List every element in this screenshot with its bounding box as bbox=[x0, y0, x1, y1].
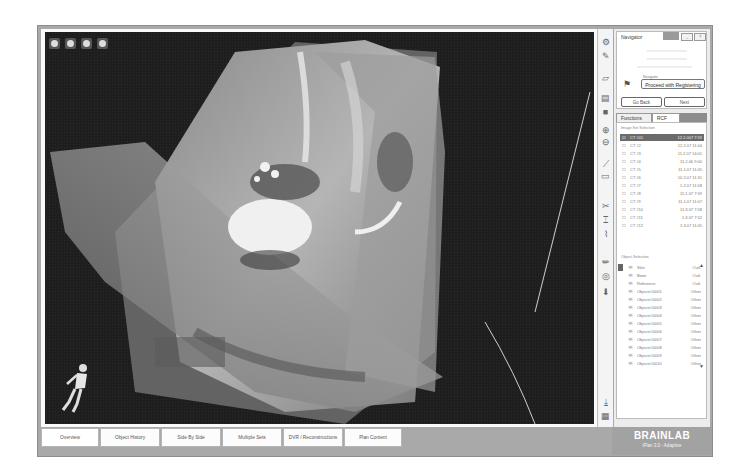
object-visibility-icon[interactable]: 👁 bbox=[625, 328, 635, 335]
tab-overview[interactable]: Overview bbox=[41, 428, 99, 447]
logo-text: BRAINLAB bbox=[612, 430, 712, 441]
tab-object-history[interactable]: Object History bbox=[100, 428, 160, 447]
zoom-out-icon[interactable]: ⊖ bbox=[600, 137, 611, 148]
object-row[interactable]: 👁Objects#0004Other bbox=[625, 312, 703, 319]
navigator-step bbox=[637, 66, 692, 68]
image-set-row[interactable]: ☐CT #511.1.07 11:05 bbox=[620, 166, 704, 173]
brush-icon[interactable]: ✎ bbox=[600, 51, 611, 62]
checkbox-icon[interactable]: ☐ bbox=[620, 190, 628, 197]
next-button[interactable]: Next bbox=[664, 97, 705, 107]
object-visibility-icon[interactable]: 👁 bbox=[625, 360, 635, 367]
checkbox-icon[interactable]: ☐ bbox=[620, 158, 628, 165]
tab-multiple-sets[interactable]: Multiple Sets bbox=[222, 428, 282, 447]
object-visibility-icon[interactable]: 👁 bbox=[625, 264, 635, 271]
image-set-row[interactable]: ☐CT #71.2.07 11:58 bbox=[620, 182, 704, 189]
selection-lists: Image Set Selection ☑CT #0112.2.007 7:59… bbox=[616, 122, 707, 419]
object-visibility-icon[interactable]: 👁 bbox=[625, 280, 635, 287]
screenshot-icon[interactable]: ▭ bbox=[600, 171, 611, 182]
checkbox-icon[interactable]: ☐ bbox=[620, 198, 628, 205]
object-visibility-icon[interactable]: 👁 bbox=[625, 296, 635, 303]
checkbox-icon[interactable]: ☐ bbox=[620, 182, 628, 189]
export-icon[interactable]: ⤓ bbox=[600, 397, 611, 408]
checkbox-icon[interactable]: ☐ bbox=[620, 142, 628, 149]
zoom-icon[interactable] bbox=[49, 38, 60, 49]
tab-plan-content[interactable]: Plan Content bbox=[344, 428, 402, 447]
multi-cut-icon[interactable]: ⌇ bbox=[600, 229, 611, 240]
display-settings-icon[interactable]: ⚙ bbox=[600, 37, 611, 48]
image-set-row[interactable]: ☐CT #212.2.07 11:04 bbox=[620, 142, 704, 149]
image-set-row[interactable]: ☐CT #811.1.07 7:59 bbox=[620, 190, 704, 197]
object-visibility-icon[interactable]: 👁 bbox=[625, 312, 635, 319]
checkbox-icon[interactable]: ☐ bbox=[620, 222, 628, 229]
minimize-button[interactable]: _ bbox=[681, 33, 693, 41]
pencil-icon[interactable]: ✏ bbox=[600, 257, 611, 268]
object-row[interactable]: 👁Objects#0006Other bbox=[625, 328, 703, 335]
navigator-panel: Navigator _ ? ⚑ Navigator Proceed with R… bbox=[616, 31, 707, 109]
object-visibility-icon[interactable]: 👁 bbox=[625, 304, 635, 311]
checkbox-icon[interactable]: ☐ bbox=[620, 214, 628, 221]
image-set-row[interactable]: ☑CT #0112.2.007 7:59 bbox=[620, 134, 704, 141]
object-row[interactable]: 👁Objects#0008Other bbox=[625, 344, 703, 351]
object-visibility-icon[interactable]: 👁 bbox=[625, 272, 635, 279]
checkbox-icon[interactable]: ☐ bbox=[620, 150, 628, 157]
image-set-row[interactable]: ☐CT #111.3.07 7:52 bbox=[620, 214, 704, 221]
object-visibility-icon[interactable]: 👁 bbox=[625, 352, 635, 359]
pan-icon[interactable] bbox=[81, 38, 92, 49]
object-visibility-icon[interactable]: 👁 bbox=[625, 344, 635, 351]
measure-icon[interactable]: ⟋ bbox=[600, 159, 611, 170]
checkbox-icon[interactable]: ☐ bbox=[620, 206, 628, 213]
color-swatch bbox=[618, 264, 623, 271]
tab-functions[interactable]: Functions bbox=[616, 113, 652, 122]
object-row[interactable]: 👁Objects#0009Other bbox=[625, 352, 703, 359]
image-set-row[interactable]: ☐CT #411.2.06 9:00 bbox=[620, 158, 704, 165]
checkbox-icon[interactable]: ☐ bbox=[620, 166, 628, 173]
image-set-section-label: Image Set Selection bbox=[621, 126, 655, 130]
navigator-header-accent bbox=[663, 32, 679, 40]
object-row[interactable]: 👁Objects#0002Other bbox=[625, 296, 703, 303]
navigator-flag-icon: ⚑ bbox=[623, 79, 635, 89]
viewer-container bbox=[41, 29, 597, 427]
tab-dvr-reconstructions[interactable]: DVR / Reconstructions bbox=[283, 428, 343, 447]
image-set-row[interactable]: ☐CT #1011.3.07 7:58 bbox=[620, 206, 704, 213]
object-row[interactable]: 👁Objects#0010Other bbox=[625, 360, 703, 367]
navigator-title: Navigator bbox=[621, 34, 642, 40]
cut-alt-icon[interactable]: ⌶ bbox=[600, 215, 611, 226]
tab-rcf[interactable]: RCF bbox=[652, 113, 680, 122]
scroll-down-icon[interactable]: ▼ bbox=[699, 363, 704, 369]
grid-icon[interactable]: ▦ bbox=[600, 411, 611, 422]
product-version: iPlan 3.0 - Adaptive bbox=[612, 443, 712, 448]
rotate-icon[interactable] bbox=[65, 38, 76, 49]
3d-view[interactable] bbox=[45, 32, 594, 424]
zoom-in-icon[interactable]: ⊕ bbox=[600, 125, 611, 136]
object-row[interactable]: 👁Objects#0005Other bbox=[625, 320, 703, 327]
checkbox-icon[interactable]: ☐ bbox=[620, 174, 628, 181]
layers-icon[interactable]: ▤ bbox=[600, 93, 611, 104]
object-visibility-icon[interactable]: 👁 bbox=[625, 320, 635, 327]
object-row[interactable]: 👁Objects#0003Other bbox=[625, 304, 703, 311]
tab-side-by-side[interactable]: Side By Side bbox=[161, 428, 221, 447]
hand-icon[interactable] bbox=[97, 38, 108, 49]
object-row[interactable]: 👁ReferenceOutl. bbox=[625, 280, 703, 287]
cut-icon[interactable]: ✂ bbox=[600, 201, 611, 212]
image-set-row[interactable]: ☐CT #121.3.07 11:05 bbox=[620, 222, 704, 229]
object-row[interactable]: 👁Objects#0001Other bbox=[625, 288, 703, 295]
navigator-step-dropdown[interactable]: Proceed with Registering bbox=[641, 79, 705, 89]
checkbox-icon[interactable]: ☑ bbox=[620, 134, 628, 141]
object-section-label: Object Selection bbox=[621, 255, 649, 259]
ct-reconstruction-image bbox=[45, 32, 594, 424]
object-visibility-icon[interactable]: 👁 bbox=[625, 336, 635, 343]
brainlab-logo: BRAINLAB iPlan 3.0 - Adaptive bbox=[612, 427, 712, 455]
image-set-row[interactable]: ☐CT #311.2.07 14:01 bbox=[620, 150, 704, 157]
back-button[interactable]: Go Back bbox=[621, 97, 662, 107]
object-row[interactable]: 👁Objects#0007Other bbox=[625, 336, 703, 343]
slice-icon[interactable]: ▱ bbox=[600, 73, 611, 84]
object-row[interactable]: 👁BoneOutl. bbox=[625, 272, 703, 279]
target-icon[interactable]: ◎ bbox=[600, 271, 611, 282]
object-row[interactable]: 👁SkinOutl. bbox=[625, 264, 703, 271]
fill-icon[interactable]: ⬇ bbox=[600, 287, 611, 298]
object-visibility-icon[interactable]: 👁 bbox=[625, 288, 635, 295]
image-set-row[interactable]: ☐CT #610.2.07 11:31 bbox=[620, 174, 704, 181]
object-icon[interactable]: ■ bbox=[600, 107, 611, 118]
help-button[interactable]: ? bbox=[694, 33, 706, 41]
image-set-row[interactable]: ☐CT #911.1.07 11:07 bbox=[620, 198, 704, 205]
